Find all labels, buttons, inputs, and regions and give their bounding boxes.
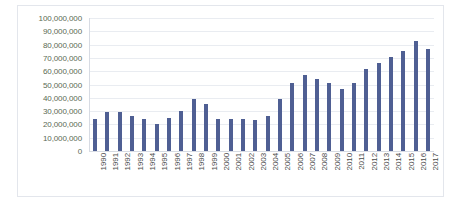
bar[interactable] [241,119,245,151]
x-axis-tick-label: 2008 [320,153,329,170]
bar[interactable] [401,51,405,151]
x-axis-tick-label: 2011 [357,153,366,170]
bar-slot [335,18,347,151]
x-axis-tick-label: 1999 [210,153,219,170]
bar[interactable] [290,83,294,151]
bar-slot [200,18,212,151]
x-axis-tick-label: 1997 [185,153,194,170]
chart-container: 100,000,00090,000,00080,000,00070,000,00… [17,5,444,197]
y-axis-tick-label: 20,000,000 [43,120,82,129]
x-axis-tick-label: 2007 [308,153,317,170]
gridline [89,151,434,152]
bar[interactable] [340,89,344,152]
bar-slot [151,18,163,151]
x-axis-tick-label: 1992 [123,153,132,170]
x-axis-tick-label: 2002 [247,153,256,170]
bar-slot [397,18,409,151]
bar-slot [323,18,335,151]
bar-slot [249,18,261,151]
x-axis-tick-label: 1998 [197,153,206,170]
bar[interactable] [93,119,97,151]
bar-slot [114,18,126,151]
y-axis-tick-label: 10,000,000 [43,133,82,142]
bar[interactable] [278,99,282,151]
x-axis-tick-label: 2014 [394,153,403,170]
bar-slot [175,18,187,151]
x-axis-tick-label: 2005 [283,153,292,170]
bar-slot [89,18,101,151]
x-axis-tick-label: 2012 [370,153,379,170]
bar[interactable] [414,41,418,151]
bar[interactable] [229,119,233,151]
bar[interactable] [327,83,331,151]
x-axis-tick-label: 1991 [111,153,120,170]
bar[interactable] [179,111,183,151]
bar[interactable] [118,112,122,151]
bar[interactable] [352,83,356,151]
bar-series [89,18,434,151]
x-axis-tick-label: 1994 [148,153,157,170]
bar[interactable] [142,119,146,151]
bar[interactable] [204,104,208,151]
bar[interactable] [266,116,270,151]
bar[interactable] [253,120,257,151]
y-axis-tick-label: 60,000,000 [43,67,82,76]
bar-slot [274,18,286,151]
bar-slot [138,18,150,151]
bar[interactable] [105,112,109,151]
bar-slot [360,18,372,151]
x-axis-tick-label: 2001 [234,153,243,170]
y-axis-tick-label: 40,000,000 [43,93,82,102]
bar[interactable] [315,79,319,151]
x-axis-tick-label: 1990 [99,153,108,170]
x-axis-tick-label: 2000 [222,153,231,170]
x-axis: 1990199119921993199419951996199719981999… [89,153,434,197]
x-axis-tick-label: 2006 [296,153,305,170]
bar-slot [298,18,310,151]
y-axis-tick-label: 100,000,000 [39,14,82,23]
bar[interactable] [377,63,381,151]
bar-slot [385,18,397,151]
y-axis-tick-label: 70,000,000 [43,53,82,62]
bar-slot [262,18,274,151]
bar-slot [225,18,237,151]
bar[interactable] [130,116,134,151]
y-axis-tick-label: 50,000,000 [43,80,82,89]
y-axis-tick-label: 0 [78,147,82,156]
x-axis-tick-label: 1996 [173,153,182,170]
y-axis-tick-label: 30,000,000 [43,107,82,116]
y-axis-tick-label: 80,000,000 [43,40,82,49]
bar-slot [311,18,323,151]
x-axis-tick-label: 2010 [345,153,354,170]
x-axis-tick-label: 1993 [136,153,145,170]
bar-slot [409,18,421,151]
y-axis: 100,000,00090,000,00080,000,00070,000,00… [18,18,86,151]
x-axis-tick-label: 2004 [271,153,280,170]
bar-slot [422,18,434,151]
bar[interactable] [364,69,368,151]
x-axis-tick-label: 2017 [431,153,440,170]
bar[interactable] [167,118,171,151]
x-axis-tick-label: 2015 [407,153,416,170]
bar[interactable] [389,57,393,151]
bar-slot [212,18,224,151]
x-axis-tick-label: 2003 [259,153,268,170]
bar-slot [237,18,249,151]
x-axis-tick-label: 2009 [333,153,342,170]
bar-slot [126,18,138,151]
x-axis-tick-label: 1995 [160,153,169,170]
bar[interactable] [216,119,220,151]
x-axis-tick-label: 2016 [419,153,428,170]
bar-slot [372,18,384,151]
bar-slot [188,18,200,151]
bar[interactable] [303,75,307,151]
bar[interactable] [426,49,430,151]
bar-slot [163,18,175,151]
x-axis-tick-label: 2013 [382,153,391,170]
y-axis-tick-label: 90,000,000 [43,27,82,36]
bar-slot [348,18,360,151]
bar[interactable] [192,99,196,151]
bar-slot [101,18,113,151]
bar[interactable] [155,124,159,151]
bar-slot [286,18,298,151]
